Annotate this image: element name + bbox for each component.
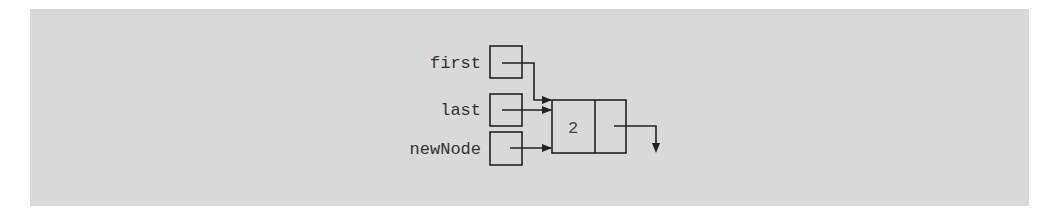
pointer-label-newNode: newNode — [410, 140, 481, 159]
pointer-label-first: first — [430, 54, 481, 73]
linked-list-diagram: first last newNode 2 — [0, 0, 1057, 217]
null-arrow-icon — [652, 143, 660, 153]
node-link-line — [614, 126, 656, 145]
pointer-first: first — [430, 46, 551, 100]
node-info-value: 2 — [568, 119, 578, 138]
pointer-newNode: newNode — [410, 132, 551, 165]
list-node: 2 — [552, 100, 660, 153]
pointer-label-last: last — [440, 101, 481, 120]
pointer-box-first — [490, 46, 522, 78]
